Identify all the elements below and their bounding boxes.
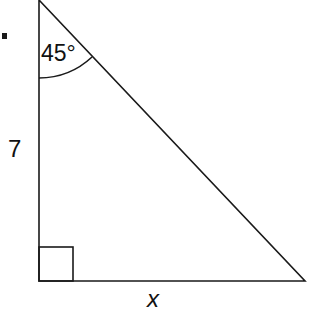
bullet-marker <box>2 33 7 39</box>
angle-label: 45° <box>41 42 76 65</box>
vertical-side-label: 7 <box>8 137 21 161</box>
right-angle-marker <box>39 247 73 281</box>
horizontal-side-label: x <box>147 287 159 311</box>
right-triangle <box>39 0 305 281</box>
